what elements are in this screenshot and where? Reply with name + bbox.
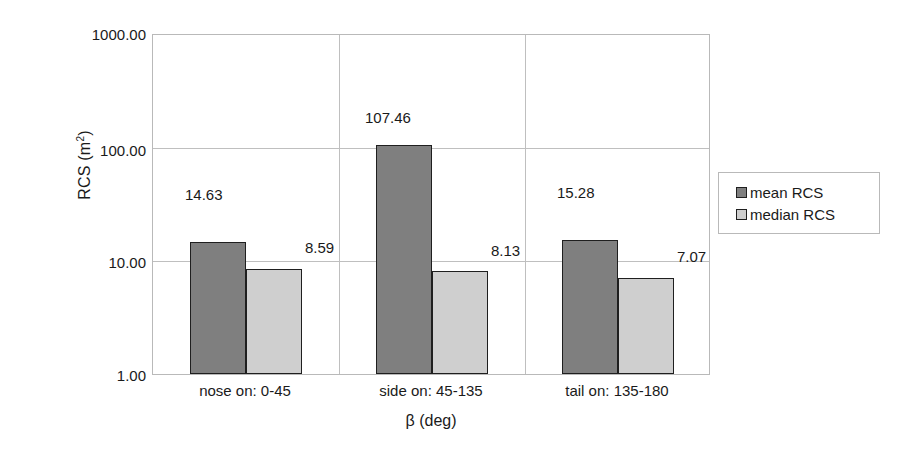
x-tick-label-tail-on: tail on: 135-180: [524, 383, 710, 399]
data-label-mean-tail-on: 15.28: [557, 185, 595, 200]
category-separator-2: [525, 35, 526, 374]
legend-item-median-rcs[interactable]: median RCS: [719, 203, 879, 225]
legend-label-median-rcs: median RCS: [750, 207, 835, 222]
y-axis-tick-labels: 1000.00 100.00 10.00 1.00: [40, 0, 146, 459]
rcs-bar-chart-figure: RCS (m2) 1000.00 100.00 10.00 1.00 14.63…: [0, 0, 916, 459]
y-tick-label-100: 100.00: [46, 143, 146, 158]
legend-label-mean-rcs: mean RCS: [750, 185, 823, 200]
category-separator-1: [339, 35, 340, 374]
plot-area: 14.63 8.59 107.46 8.13 15.28 7.07: [152, 34, 710, 375]
bar-median-side-on: [432, 271, 488, 374]
data-label-median-side-on: 8.13: [491, 243, 520, 258]
y-tick-label-1000: 1000.00: [46, 27, 146, 42]
y-tick-label-1: 1.00: [46, 368, 146, 383]
bar-mean-side-on: [376, 145, 432, 375]
bar-mean-tail-on: [562, 240, 618, 374]
x-axis-title: β (deg): [152, 412, 710, 430]
legend: mean RCS median RCS: [718, 172, 880, 234]
legend-swatch-median-rcs: [736, 209, 747, 220]
x-tick-label-side-on: side on: 45-135: [338, 383, 524, 399]
x-tick-label-nose-on: nose on: 0-45: [152, 383, 338, 399]
y-tick-label-10: 10.00: [46, 255, 146, 270]
data-label-mean-nose-on: 14.63: [185, 187, 223, 202]
data-label-median-tail-on: 7.07: [677, 249, 706, 264]
bar-mean-nose-on: [190, 242, 246, 374]
bar-median-nose-on: [246, 269, 302, 375]
data-label-median-nose-on: 8.59: [305, 240, 334, 255]
legend-item-mean-rcs[interactable]: mean RCS: [719, 181, 879, 203]
legend-swatch-mean-rcs: [736, 187, 747, 198]
bar-median-tail-on: [618, 278, 674, 374]
data-label-mean-side-on: 107.46: [365, 110, 411, 125]
